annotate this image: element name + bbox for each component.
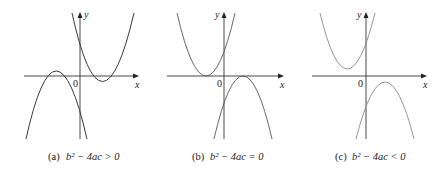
x-axis-arrow-icon [278, 74, 284, 79]
y-axis-label: y [83, 9, 89, 20]
panel-c: y x 0 (c) b² − 4ac < 0 [312, 9, 428, 163]
y-axis-arrow-icon [364, 12, 369, 18]
y-axis-label: y [356, 9, 362, 20]
caption-b-expression: b² − 4ac = 0 [210, 151, 264, 162]
upward-parabola [320, 13, 375, 69]
upward-parabola [72, 13, 134, 82]
x-axis-label: x [279, 79, 285, 90]
y-axis-arrow-icon [78, 12, 83, 18]
caption-a-expression: b² − 4ac > 0 [66, 151, 120, 162]
panel-a: y x 0 (a) b² − 4ac > 0 [24, 9, 140, 163]
panel-b: y x 0 (b) b² − 4ac = 0 [167, 9, 285, 163]
y-axis-label: y [214, 9, 220, 20]
upward-parabola [177, 13, 235, 76]
origin-label: 0 [217, 78, 222, 89]
x-axis-label: x [134, 79, 140, 90]
caption-c: (c) [335, 151, 347, 163]
x-axis-label: x [422, 79, 428, 90]
origin-label: 0 [358, 78, 363, 89]
downward-parabola [214, 76, 272, 139]
x-axis-arrow-icon [421, 74, 427, 79]
quadratic-discriminant-figure: y x 0 (a) b² − 4ac > 0 y x 0 (b) b² − 4a… [0, 0, 445, 172]
caption-b: (b) [192, 151, 205, 163]
origin-label: 0 [73, 78, 78, 89]
caption-c-expression: b² − 4ac < 0 [352, 151, 406, 162]
downward-parabola [356, 82, 414, 139]
x-axis-arrow-icon [133, 74, 139, 79]
caption-a: (a) [48, 151, 60, 163]
y-axis-arrow-icon [222, 12, 227, 18]
